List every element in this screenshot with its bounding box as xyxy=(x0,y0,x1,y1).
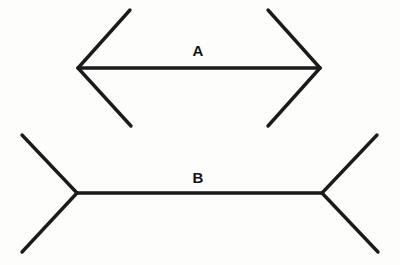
figure-a-top-right-fin xyxy=(268,10,320,68)
figure-a-label: A xyxy=(192,43,203,58)
figure-a-group xyxy=(78,10,320,126)
figure-a-bottom-left-fin xyxy=(78,68,131,126)
muller-lyer-figure: A B xyxy=(0,0,400,265)
figure-b-top-right-fin xyxy=(322,135,377,193)
figure-b-label: B xyxy=(192,170,203,185)
figure-a-top-left-fin xyxy=(78,10,130,68)
figure-a-bottom-right-fin xyxy=(268,68,320,126)
figure-b-top-left-fin xyxy=(22,135,77,193)
figure-b-bottom-right-fin xyxy=(322,193,378,252)
figure-canvas xyxy=(0,0,400,265)
figure-b-bottom-left-fin xyxy=(22,193,77,252)
figure-b-group xyxy=(22,135,378,252)
